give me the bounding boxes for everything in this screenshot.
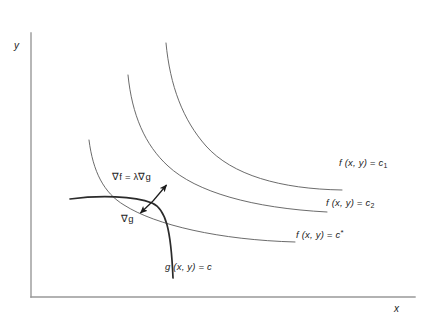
level-curve-1-subscript: 1 [383,162,387,169]
level-curve-2-subscript: 2 [370,202,374,209]
level-curve-2-args: (x, y) = [332,197,363,208]
constraint-curve-value: c [207,261,212,272]
level-curve-c1 [166,43,342,190]
x-axis-label: x [394,303,399,314]
level-curve-1-label: f (x, y) = c1 [339,157,387,169]
level-curve-2-label: f (x, y) = c2 [326,197,374,209]
gradient-g-label: ∇g [121,213,134,224]
level-curve-1-args: (x, y) = [345,157,376,168]
gradient-g-arrow [141,201,154,213]
constraint-curve-group [70,197,173,278]
level-curve-star-args: (x, y) = [302,229,333,240]
constraint-curve-label: g (x, y) = c [165,261,212,272]
lagrange-diagram-figure: y x ∇f = λ∇g ∇g f (x, y) = c1 f (x, y) =… [0,0,427,327]
gradient-f-arrow [153,185,167,201]
y-axis-label: y [14,40,19,51]
gradient-vectors-group [141,185,167,213]
level-curve-cstar [89,140,295,242]
level-curve-c2 [128,75,327,212]
gradient-f-label: ∇f = λ∇g [112,171,151,182]
constraint-curve-args: (x, y) = [173,261,204,272]
constraint-curve-g [70,197,173,278]
level-curve-star-label: f (x, y) = c* [296,228,344,240]
level-curve-star-superscript: * [340,228,343,237]
